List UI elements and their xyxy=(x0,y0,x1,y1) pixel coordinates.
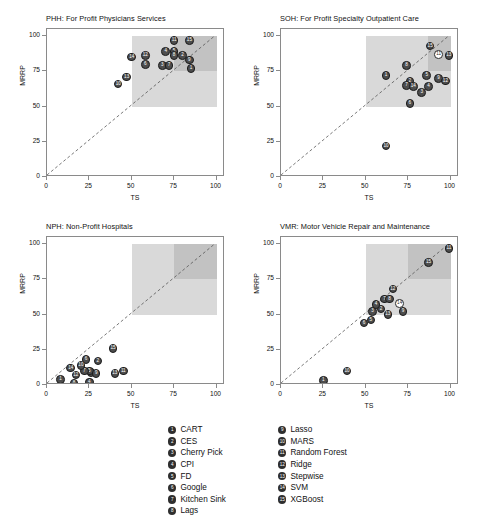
legend-item-label: Lags xyxy=(180,506,198,515)
legend-item-label: MARS xyxy=(290,437,314,446)
x-tick-label: 50 xyxy=(119,390,143,397)
data-point-lags: 8 xyxy=(70,379,79,384)
y-tick-label: 100 xyxy=(250,239,274,246)
data-point-lags: 8 xyxy=(385,295,394,304)
x-tick-label: 25 xyxy=(76,390,100,397)
panel-title: VMR: Motor Vehicle Repair and Maintenanc… xyxy=(280,222,430,231)
legend-item-label: Random Forest xyxy=(290,448,346,457)
plot-area: 123456789101112131415 xyxy=(280,28,458,176)
data-point-google: 6 xyxy=(406,99,415,108)
x-tick-label: 100 xyxy=(204,390,228,397)
legend-item-label: CES xyxy=(180,437,197,446)
data-point-cpi: 4 xyxy=(424,82,433,91)
legend-marker-icon: 12 xyxy=(278,460,286,468)
x-tick-mark xyxy=(216,176,217,180)
legend-marker-icon: 15 xyxy=(278,495,286,503)
x-tick-label: 100 xyxy=(438,182,462,189)
data-point-random-forest: 11 xyxy=(170,36,179,45)
y-tick-label: 100 xyxy=(16,31,40,38)
panel-nph: NPH: Non-Profit HospitalsMRRPTS025507510… xyxy=(14,222,244,427)
legend-item-label: CART xyxy=(180,425,202,434)
legend-column-1: 1CART2CES3Cherry Pick4CPI5FD6Google7Kitc… xyxy=(168,424,226,517)
data-point-xgboost: 15 xyxy=(424,258,433,267)
x-axis-label: TS xyxy=(280,194,458,201)
legend-item-lags: 8Lags xyxy=(168,505,226,517)
x-tick-mark xyxy=(131,176,132,180)
figure-legend: 1CART2CES3Cherry Pick4CPI5FD6Google7Kitc… xyxy=(0,418,485,532)
legend-marker-icon: 13 xyxy=(278,472,286,480)
data-point-stepwise: 13 xyxy=(384,310,393,319)
y-tick-label: 50 xyxy=(250,310,274,317)
data-point-ridge: 12 xyxy=(441,77,450,86)
y-tick-label: 25 xyxy=(250,345,274,352)
legend-marker-icon: 5 xyxy=(168,472,176,480)
y-tick-label: 25 xyxy=(16,137,40,144)
x-tick-mark xyxy=(131,384,132,388)
legend-marker-icon: 10 xyxy=(278,437,286,445)
shaded-region-dark xyxy=(174,244,216,279)
legend-item-label: FD xyxy=(180,472,191,481)
legend-item-kitchen-sink: 7Kitchen Sink xyxy=(168,494,226,506)
data-point-fd: 5 xyxy=(422,71,431,80)
x-tick-label: 50 xyxy=(119,182,143,189)
y-tick-label: 0 xyxy=(16,380,40,387)
x-tick-label: 75 xyxy=(161,182,185,189)
x-tick-mark xyxy=(46,384,47,388)
x-tick-mark xyxy=(365,384,366,388)
panel-phh: PHH: For Profit Physicians ServicesMRRPT… xyxy=(14,14,244,219)
x-tick-label: 75 xyxy=(161,390,185,397)
legend-item-label: Cherry Pick xyxy=(180,448,222,457)
data-point-svm: 14 xyxy=(395,299,404,308)
legend-item-cherry-pick: 3Cherry Pick xyxy=(168,447,226,459)
y-tick-label: 50 xyxy=(16,310,40,317)
x-tick-label: 25 xyxy=(310,390,334,397)
x-tick-mark xyxy=(173,176,174,180)
x-tick-label: 0 xyxy=(34,390,58,397)
y-tick-label: 25 xyxy=(16,345,40,352)
data-point-svm: 14 xyxy=(409,82,418,91)
data-point-cpi: 4 xyxy=(161,47,170,56)
x-axis-label: TS xyxy=(280,402,458,409)
x-tick-mark xyxy=(407,384,408,388)
x-axis-label: TS xyxy=(46,194,224,201)
x-tick-label: 100 xyxy=(438,390,462,397)
x-tick-mark xyxy=(280,384,281,388)
data-point-mars: 10 xyxy=(343,367,352,376)
data-point-mars: 10 xyxy=(114,80,123,89)
x-tick-label: 75 xyxy=(395,390,419,397)
legend-marker-icon: 3 xyxy=(168,449,176,457)
x-tick-mark xyxy=(407,176,408,180)
data-point-xgboost: 15 xyxy=(109,344,118,353)
figure-scatter-grid: PHH: For Profit Physicians ServicesMRRPT… xyxy=(0,0,485,532)
data-point-stepwise: 13 xyxy=(122,73,131,82)
data-point-mars: 10 xyxy=(382,142,391,151)
legend-item-xgboost: 15XGBoost xyxy=(278,494,347,506)
legend-item-label: SVM xyxy=(290,483,308,492)
y-tick-label: 0 xyxy=(250,380,274,387)
panel-soh: SOH: For Profit Specialty Outpatient Car… xyxy=(248,14,478,219)
data-point-cart: 1 xyxy=(56,375,65,384)
y-tick-label: 100 xyxy=(250,31,274,38)
x-tick-mark xyxy=(365,176,366,180)
data-point-xgboost: 15 xyxy=(185,36,194,45)
legend-marker-icon: 11 xyxy=(278,449,286,457)
y-tick-label: 50 xyxy=(16,102,40,109)
data-point-random-forest: 11 xyxy=(445,244,454,253)
x-tick-mark xyxy=(322,384,323,388)
data-point-cart: 1 xyxy=(319,376,328,384)
legend-item-label: Ridge xyxy=(290,460,311,469)
y-tick-label: 50 xyxy=(250,102,274,109)
plot-area: 123456789101112131415 xyxy=(46,28,224,176)
legend-item-label: Google xyxy=(180,483,206,492)
data-point-lasso: 9 xyxy=(92,369,101,378)
data-point-ces: 2 xyxy=(94,357,103,366)
plot-area: 123456789101112131415 xyxy=(280,236,458,384)
data-point-lasso: 9 xyxy=(399,307,408,316)
legend-column-2: 9Lasso10MARS11Random Forest12Ridge13Step… xyxy=(278,424,347,505)
legend-item-label: CPI xyxy=(180,460,194,469)
legend-item-label: Kitchen Sink xyxy=(180,495,226,504)
x-tick-label: 0 xyxy=(34,182,58,189)
data-point-mars: 10 xyxy=(77,361,86,370)
data-point-random-forest: 11 xyxy=(119,367,128,376)
panel-title: PHH: For Profit Physicians Services xyxy=(46,14,166,23)
